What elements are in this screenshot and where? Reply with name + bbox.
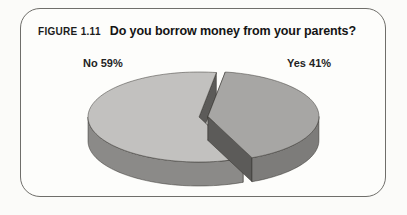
pie-chart-3d: [0, 0, 407, 215]
figure-panel-page: FIGURE 1.11 Do you borrow money from you…: [0, 0, 407, 215]
slice-label-yes: Yes 41%: [287, 57, 331, 69]
slice-label-no: No 59%: [83, 57, 123, 69]
